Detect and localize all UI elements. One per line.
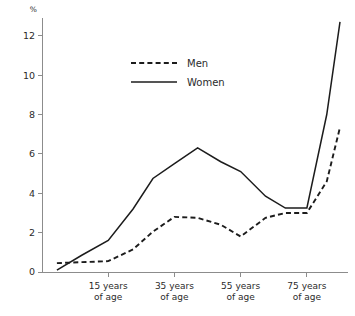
x-tick-label-line2: of age [293, 292, 322, 302]
x-tick-label-line1: 35 years [155, 281, 194, 291]
y-tick-label: 10 [23, 70, 35, 81]
legend-label-men: Men [187, 58, 208, 69]
y-axis-unit-label: % [30, 5, 37, 14]
y-tick-label: 2 [29, 227, 35, 238]
x-tick-label-line2: of age [94, 292, 123, 302]
x-tick-label-line2: of age [160, 292, 189, 302]
x-tick-label-line2: of age [227, 292, 256, 302]
x-tick-label-line1: 15 years [89, 281, 128, 291]
x-tick-label-line1: 75 years [287, 281, 326, 291]
legend-label-women: Women [187, 77, 225, 88]
y-tick-label: 4 [29, 188, 35, 199]
x-tick-label-line1: 55 years [221, 281, 260, 291]
y-tick-label: 12 [23, 30, 35, 41]
chart-figure: %02468101215 yearsof age35 yearsof age55… [0, 0, 355, 316]
y-tick-label: 6 [29, 148, 35, 159]
y-tick-label: 0 [29, 266, 35, 277]
y-tick-label: 8 [29, 109, 35, 120]
line-chart-canvas: %02468101215 yearsof age35 yearsof age55… [0, 0, 355, 316]
